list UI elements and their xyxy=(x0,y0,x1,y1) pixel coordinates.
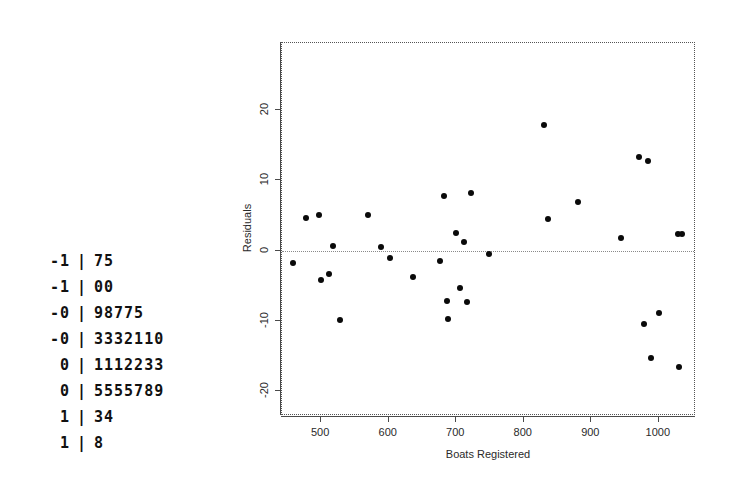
data-point xyxy=(365,212,371,218)
data-point xyxy=(648,355,654,361)
x-axis-tick-label: 800 xyxy=(514,426,532,438)
data-point xyxy=(444,298,450,304)
stem-leaf-separator: | xyxy=(70,300,94,326)
x-axis-line xyxy=(281,416,695,417)
stem-value: -1 xyxy=(40,248,70,274)
stem-value: -1 xyxy=(40,274,70,300)
y-axis-tick-label: -20 xyxy=(258,381,270,399)
x-axis-tick xyxy=(658,417,659,422)
stem-value: -0 xyxy=(40,300,70,326)
data-point xyxy=(575,199,581,205)
data-point xyxy=(645,158,651,164)
stem-leaf-row: 0|1112233 xyxy=(40,352,164,378)
x-axis-tick-label: 900 xyxy=(581,426,599,438)
stem-leaf-row: 1|8 xyxy=(40,430,164,456)
y-axis-tick-label: 20 xyxy=(258,100,270,118)
y-axis-tick-label: 0 xyxy=(258,241,270,259)
y-axis-tick xyxy=(275,109,280,110)
data-point xyxy=(453,230,459,236)
x-axis-tick xyxy=(523,417,524,422)
data-point xyxy=(676,364,682,370)
data-point xyxy=(387,255,393,261)
x-axis-tick xyxy=(590,417,591,422)
stem-leaf-row: -1|75 xyxy=(40,248,164,274)
stem-leaf-separator: | xyxy=(70,352,94,378)
data-point xyxy=(457,285,463,291)
data-point xyxy=(330,243,336,249)
data-point xyxy=(545,216,551,222)
screenshot-root: -1|75-1|00-0|98775-0|33321100|11122330|5… xyxy=(0,0,731,497)
data-point xyxy=(445,316,451,322)
data-point xyxy=(337,317,343,323)
x-axis-tick-label: 1000 xyxy=(646,426,670,438)
data-point xyxy=(641,321,647,327)
data-point xyxy=(303,215,309,221)
stem-value: 1 xyxy=(40,430,70,456)
data-point xyxy=(316,212,322,218)
data-point xyxy=(318,277,324,283)
stem-leaf-separator: | xyxy=(70,430,94,456)
stem-value: 0 xyxy=(40,352,70,378)
stem-and-leaf-display: -1|75-1|00-0|98775-0|33321100|11122330|5… xyxy=(40,248,164,456)
data-point xyxy=(541,122,547,128)
stem-value: 0 xyxy=(40,378,70,404)
leaf-values: 75 xyxy=(94,248,114,274)
data-point xyxy=(636,154,642,160)
data-point xyxy=(410,274,416,280)
stem-leaf-separator: | xyxy=(70,248,94,274)
stem-leaf-separator: | xyxy=(70,274,94,300)
stem-value: -0 xyxy=(40,326,70,352)
leaf-values: 5555789 xyxy=(94,378,164,404)
data-point xyxy=(326,271,332,277)
y-axis-label: Residuals xyxy=(241,204,253,252)
x-axis-tick-label: 700 xyxy=(446,426,464,438)
residual-scatter-plot: Boats Registered Residuals 5006007008009… xyxy=(225,20,715,490)
y-axis-tick xyxy=(275,320,280,321)
data-point xyxy=(290,260,296,266)
y-axis-tick xyxy=(275,179,280,180)
x-axis-label: Boats Registered xyxy=(281,448,695,460)
y-axis-tick-label: 10 xyxy=(258,170,270,188)
data-point xyxy=(618,235,624,241)
leaf-values: 3332110 xyxy=(94,326,164,352)
x-axis-tick xyxy=(320,417,321,422)
y-axis-tick-label: -10 xyxy=(258,311,270,329)
data-point xyxy=(656,310,662,316)
data-point xyxy=(679,231,685,237)
y-axis-line xyxy=(280,42,281,415)
data-point xyxy=(468,190,474,196)
stem-leaf-row: -0|98775 xyxy=(40,300,164,326)
data-point xyxy=(461,239,467,245)
plot-panel xyxy=(281,42,695,415)
data-point xyxy=(378,244,384,250)
stem-leaf-row: 0|5555789 xyxy=(40,378,164,404)
leaf-values: 8 xyxy=(94,430,104,456)
stem-leaf-separator: | xyxy=(70,378,94,404)
y-axis-tick xyxy=(275,390,280,391)
stem-leaf-row: 1|34 xyxy=(40,404,164,430)
data-point xyxy=(437,258,443,264)
x-axis-tick xyxy=(388,417,389,422)
leaf-values: 34 xyxy=(94,404,114,430)
x-axis-tick xyxy=(455,417,456,422)
leaf-values: 1112233 xyxy=(94,352,164,378)
stem-leaf-separator: | xyxy=(70,404,94,430)
data-point xyxy=(486,251,492,257)
stem-value: 1 xyxy=(40,404,70,430)
data-point xyxy=(441,193,447,199)
stem-leaf-row: -0|3332110 xyxy=(40,326,164,352)
x-axis-tick-label: 500 xyxy=(311,426,329,438)
y-axis-tick xyxy=(275,250,280,251)
stem-leaf-row: -1|00 xyxy=(40,274,164,300)
stem-leaf-separator: | xyxy=(70,326,94,352)
leaf-values: 98775 xyxy=(94,300,144,326)
x-axis-tick-label: 600 xyxy=(379,426,397,438)
data-point xyxy=(464,299,470,305)
leaf-values: 00 xyxy=(94,274,114,300)
